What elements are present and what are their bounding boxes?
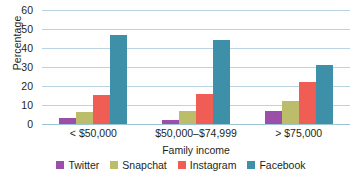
bar-chart: Percentage 6050403020100 < $50,000$50,00…: [0, 0, 362, 186]
bar-twitter[interactable]: [265, 111, 282, 124]
legend-swatch-icon: [178, 161, 186, 169]
bar-facebook[interactable]: [110, 35, 127, 124]
legend-label: Facebook: [259, 159, 305, 171]
plot-area: [42, 10, 350, 124]
y-tick-10: 10: [21, 99, 33, 111]
bar-instagram[interactable]: [93, 95, 110, 124]
bar-group: [42, 10, 145, 124]
legend-label: Twitter: [68, 159, 99, 171]
bar-group: [145, 10, 248, 124]
legend-item-snapchat[interactable]: Snapchat: [110, 159, 166, 171]
x-axis-tick-labels: < $50,000$50,000–$74,999> $75,000: [42, 127, 350, 139]
y-tick-60: 60: [21, 4, 33, 16]
bar-facebook[interactable]: [213, 40, 230, 124]
legend: TwitterSnapchatInstagramFacebook: [0, 159, 362, 171]
bar-facebook[interactable]: [316, 65, 333, 124]
legend-item-twitter[interactable]: Twitter: [56, 159, 99, 171]
bar-twitter[interactable]: [162, 120, 179, 124]
y-tick-20: 20: [21, 80, 33, 92]
bar-instagram[interactable]: [299, 82, 316, 124]
gridline-0: [42, 124, 350, 125]
x-tick-2: > $75,000: [247, 127, 350, 139]
x-axis-title: Family income: [42, 144, 350, 156]
bar-instagram[interactable]: [196, 94, 213, 124]
legend-item-instagram[interactable]: Instagram: [178, 159, 237, 171]
bar-group: [247, 10, 350, 124]
legend-swatch-icon: [56, 161, 64, 169]
y-tick-0: 0: [27, 118, 33, 130]
y-tick-50: 50: [21, 23, 33, 35]
bar-snapchat[interactable]: [282, 101, 299, 124]
bar-twitter[interactable]: [59, 118, 76, 124]
y-axis-tick-labels: 6050403020100: [0, 10, 38, 124]
source-caption: [26, 179, 356, 186]
legend-item-facebook[interactable]: Facebook: [247, 159, 305, 171]
bar-snapchat[interactable]: [76, 112, 93, 124]
x-tick-0: < $50,000: [42, 127, 145, 139]
legend-label: Snapchat: [122, 159, 166, 171]
legend-swatch-icon: [247, 161, 255, 169]
y-tick-40: 40: [21, 42, 33, 54]
x-tick-1: $50,000–$74,999: [145, 127, 248, 139]
bar-snapchat[interactable]: [179, 111, 196, 124]
legend-label: Instagram: [190, 159, 237, 171]
bar-groups: [42, 10, 350, 124]
y-tick-30: 30: [21, 61, 33, 73]
legend-swatch-icon: [110, 161, 118, 169]
